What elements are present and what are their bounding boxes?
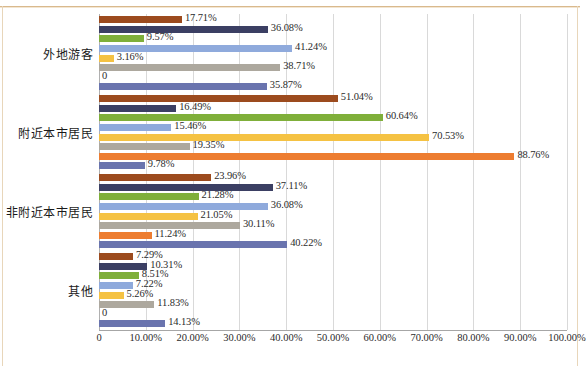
bar-value-label: 17.71% bbox=[185, 12, 217, 23]
x-tick-label: 50.00% bbox=[317, 332, 349, 343]
x-tick-label: 30.00% bbox=[223, 332, 255, 343]
bar-value-label: 21.28% bbox=[202, 189, 234, 200]
bar-series-2[interactable] bbox=[99, 105, 176, 112]
x-tick-label: 70.00% bbox=[410, 332, 442, 343]
bar-series-6[interactable] bbox=[99, 64, 280, 71]
bar-series-8[interactable] bbox=[99, 83, 267, 90]
bar-series-1[interactable] bbox=[99, 174, 211, 181]
bar-series-4[interactable] bbox=[99, 203, 268, 210]
bar-series-5[interactable] bbox=[99, 213, 198, 220]
bar-value-label: 9.78% bbox=[148, 158, 175, 169]
bar-value-label: 0 bbox=[102, 70, 107, 81]
bar-series-1[interactable] bbox=[99, 253, 133, 260]
x-tick-label: 0 bbox=[96, 332, 101, 343]
category-label-2: 附近本市居民 bbox=[0, 124, 93, 141]
x-tick-label: 10.00% bbox=[130, 332, 162, 343]
bar-series-3[interactable] bbox=[99, 114, 383, 121]
x-tick-label: 60.00% bbox=[364, 332, 396, 343]
bar-value-label: 36.08% bbox=[271, 199, 303, 210]
bar-series-5[interactable] bbox=[99, 292, 124, 299]
bar-series-7[interactable] bbox=[99, 232, 152, 239]
bar-series-3[interactable] bbox=[99, 35, 144, 42]
bar-value-label: 51.04% bbox=[341, 91, 373, 102]
bar-value-label: 21.05% bbox=[201, 209, 233, 220]
bar-series-1[interactable] bbox=[99, 16, 182, 23]
x-tick-label: 80.00% bbox=[457, 332, 489, 343]
bar-value-label: 60.64% bbox=[386, 110, 418, 121]
bar-value-label: 11.83% bbox=[157, 297, 188, 308]
x-tick-label: 100.00% bbox=[548, 332, 586, 343]
bar-series-4[interactable] bbox=[99, 124, 171, 131]
bar-series-1[interactable] bbox=[99, 95, 338, 102]
category-label-4: 其他 bbox=[0, 282, 93, 299]
bar-value-label: 0 bbox=[102, 307, 107, 318]
bar-series-5[interactable] bbox=[99, 55, 114, 62]
bar-value-label: 41.24% bbox=[295, 41, 327, 52]
bar-value-label: 11.24% bbox=[155, 228, 186, 239]
bar-groups: 17.71%36.08%9.57%41.24%3.16%38.71%035.87… bbox=[99, 14, 567, 330]
bar-series-2[interactable] bbox=[99, 184, 273, 191]
bar-series-3[interactable] bbox=[99, 193, 199, 200]
bar-series-5[interactable] bbox=[99, 134, 429, 141]
bar-value-label: 23.96% bbox=[214, 170, 246, 181]
bar-value-label: 9.57% bbox=[147, 31, 174, 42]
category-label-1: 外地游客 bbox=[0, 45, 93, 62]
bar-series-3[interactable] bbox=[99, 272, 139, 279]
bar-value-label: 14.13% bbox=[168, 316, 200, 327]
x-axis-tick-labels: 010.00%20.00%30.00%40.00%50.00%60.00%70.… bbox=[99, 332, 567, 352]
x-axis-line bbox=[99, 330, 567, 331]
bar-value-label: 5.26% bbox=[127, 288, 154, 299]
x-tick-label: 40.00% bbox=[270, 332, 302, 343]
bar-group: 23.96%37.11%21.28%36.08%21.05%30.11%11.2… bbox=[99, 172, 567, 251]
bar-value-label: 38.71% bbox=[283, 60, 315, 71]
bar-series-8[interactable] bbox=[99, 320, 165, 327]
bar-value-label: 70.53% bbox=[432, 130, 464, 141]
figure-right-border bbox=[577, 6, 578, 366]
bar-value-label: 19.35% bbox=[193, 139, 225, 150]
bar-value-label: 88.76% bbox=[517, 149, 549, 160]
gridline-10000 bbox=[567, 14, 568, 330]
bar-value-label: 15.46% bbox=[174, 120, 206, 131]
bar-value-label: 16.49% bbox=[179, 101, 211, 112]
bar-series-6[interactable] bbox=[99, 143, 190, 150]
x-tick-label: 20.00% bbox=[176, 332, 208, 343]
bar-series-8[interactable] bbox=[99, 241, 287, 248]
bar-value-label: 3.16% bbox=[117, 51, 144, 62]
plot-area: 17.71%36.08%9.57%41.24%3.16%38.71%035.87… bbox=[99, 14, 567, 330]
bar-value-label: 30.11% bbox=[243, 218, 274, 229]
bar-series-2[interactable] bbox=[99, 26, 268, 33]
bar-group: 17.71%36.08%9.57%41.24%3.16%38.71%035.87… bbox=[99, 14, 567, 93]
category-label-3: 非附近本市居民 bbox=[0, 203, 93, 220]
bar-series-6[interactable] bbox=[99, 301, 154, 308]
bar-group: 51.04%16.49%60.64%15.46%70.53%19.35%88.7… bbox=[99, 93, 567, 172]
bar-value-label: 37.11% bbox=[276, 180, 307, 191]
bar-value-label: 35.87% bbox=[270, 79, 302, 90]
bar-series-8[interactable] bbox=[99, 162, 145, 169]
figure-top-border-highlight bbox=[0, 7, 580, 8]
bar-group: 7.29%10.31%8.51%7.22%5.26%11.83%014.13% bbox=[99, 251, 567, 330]
bar-value-label: 36.08% bbox=[271, 22, 303, 33]
bar-series-2[interactable] bbox=[99, 263, 147, 270]
x-tick-label: 90.00% bbox=[504, 332, 536, 343]
bar-value-label: 40.22% bbox=[290, 237, 322, 248]
